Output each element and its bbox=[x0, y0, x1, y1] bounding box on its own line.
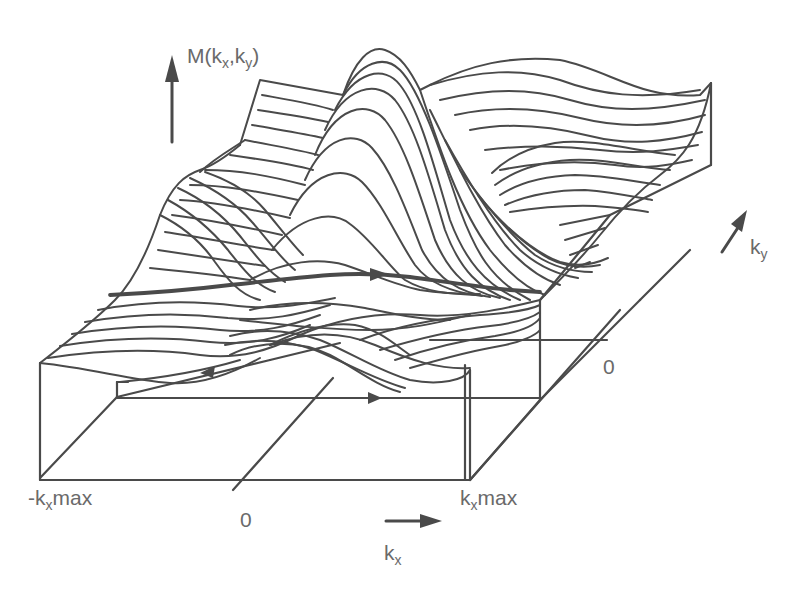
kx-axis-label: kx bbox=[384, 542, 402, 563]
kx-max-label: kxmax bbox=[460, 487, 517, 508]
kx-zero-label: 0 bbox=[240, 509, 252, 530]
base-block bbox=[40, 83, 711, 480]
floor-trajectory bbox=[40, 340, 607, 490]
surface-contours bbox=[40, 49, 711, 392]
k-space-surface-figure: M(kx,ky) ky 0 -kxmax 0 kxmax kx bbox=[0, 0, 796, 593]
surface-plot bbox=[0, 0, 796, 593]
ky-zero-label: 0 bbox=[603, 356, 615, 377]
kx-min-label: -kxmax bbox=[28, 487, 92, 508]
ky-axis-label: ky bbox=[750, 236, 768, 257]
z-axis-label: M(kx,ky) bbox=[187, 45, 259, 66]
ky-zero-trajectory bbox=[110, 268, 540, 295]
